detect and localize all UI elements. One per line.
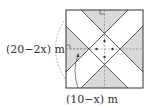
left-dimension-label: (20−2x) m <box>6 44 65 55</box>
bottom-dimension-label: (10−x) m <box>66 94 118 105</box>
